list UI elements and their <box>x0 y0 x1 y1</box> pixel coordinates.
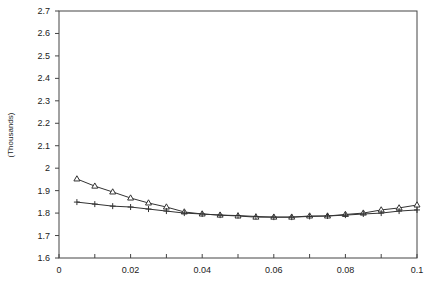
y-tick-label: 1.8 <box>37 208 50 218</box>
plus-marker-icon <box>74 199 80 205</box>
plus-marker-icon <box>92 201 98 207</box>
y-axis-title: (Thousands) <box>6 112 15 157</box>
plus-marker-icon <box>307 213 313 219</box>
x-tick-label: 0.08 <box>337 265 355 275</box>
y-tick-label: 2.1 <box>37 141 50 151</box>
y-tick-label: 2.4 <box>37 73 50 83</box>
chart-axes: 1.61.71.81.922.12.22.32.42.52.62.700.020… <box>37 6 423 275</box>
y-tick-label: 2.2 <box>37 118 50 128</box>
y-tick-label: 2.6 <box>37 28 50 38</box>
triangle-marker-icon <box>414 202 420 207</box>
y-tick-label: 2.3 <box>37 96 50 106</box>
line-chart: 1.61.71.81.922.12.22.32.42.52.62.700.020… <box>0 0 431 289</box>
y-tick-label: 2.7 <box>37 6 50 16</box>
plus-marker-icon <box>146 206 152 212</box>
chart-series <box>74 176 420 220</box>
x-tick-label: 0.06 <box>265 265 283 275</box>
y-tick-label: 1.7 <box>37 231 50 241</box>
y-tick-label: 1.9 <box>37 186 50 196</box>
plot-frame <box>59 11 417 258</box>
x-tick-label: 0 <box>56 265 61 275</box>
x-tick-label: 0.04 <box>193 265 211 275</box>
plus-marker-icon <box>342 212 348 218</box>
y-tick-label: 2 <box>45 163 50 173</box>
triangle-marker-icon <box>74 176 80 181</box>
plus-marker-icon <box>360 211 366 217</box>
plus-marker-icon <box>128 204 134 210</box>
x-tick-label: 0.02 <box>122 265 140 275</box>
series-line <box>77 179 417 217</box>
plus-marker-icon <box>110 203 116 209</box>
y-tick-label: 2.5 <box>37 51 50 61</box>
triangle-series <box>74 176 420 219</box>
x-tick-label: 0.1 <box>411 265 424 275</box>
y-tick-label: 1.6 <box>37 253 50 263</box>
plus-marker-icon <box>414 207 420 213</box>
